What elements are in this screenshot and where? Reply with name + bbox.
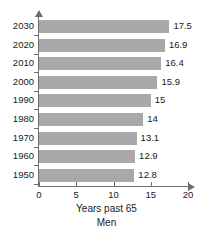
x-axis-tick	[76, 182, 77, 187]
x-axis-tick-label: 20	[176, 189, 200, 201]
bar-value-label: 16.9	[169, 38, 188, 52]
y-axis-tick	[34, 109, 38, 110]
bar	[39, 94, 151, 107]
y-axis-tick	[34, 128, 38, 129]
y-axis-tick	[34, 35, 38, 36]
y-axis-tick	[34, 72, 38, 73]
x-axis-tick	[114, 182, 115, 187]
bar-value-label: 16.4	[165, 56, 184, 70]
category-label: 1960	[13, 149, 34, 163]
bar	[39, 20, 169, 33]
bar	[39, 150, 135, 163]
category-label: 1990	[13, 93, 34, 107]
category-label: 2030	[13, 19, 34, 33]
chart-subtitle: Men	[0, 216, 213, 229]
bar-value-label: 12.9	[139, 149, 158, 163]
y-axis-tick	[34, 184, 38, 185]
bar-value-label: 17.5	[173, 19, 192, 33]
bar-row: 200015.9	[0, 76, 213, 89]
y-axis-tick	[34, 165, 38, 166]
bar-row: 203017.5	[0, 20, 213, 33]
bar-value-label: 14	[147, 112, 158, 126]
x-axis-tick-label: 15	[139, 189, 163, 201]
bar	[39, 132, 137, 145]
bar-value-label: 15	[155, 93, 166, 107]
bar-value-label: 15.9	[161, 75, 180, 89]
x-axis-tick-label: 10	[102, 189, 126, 201]
bar-row: 199015	[0, 94, 213, 107]
bar	[39, 57, 161, 70]
bar-chart: 203017.5202016.9201016.4200015.919901519…	[0, 0, 213, 237]
bar-row: 196012.9	[0, 150, 213, 163]
y-axis-tick	[34, 147, 38, 148]
x-axis-tick-label: 0	[27, 189, 51, 201]
bar-row: 201016.4	[0, 57, 213, 70]
bar-value-label: 12.8	[138, 168, 157, 182]
y-axis-arrow-icon	[35, 10, 43, 17]
y-axis-tick	[34, 91, 38, 92]
bar-value-label: 13.1	[141, 131, 160, 145]
x-axis-title: Years past 65	[0, 202, 213, 215]
bar	[39, 113, 143, 126]
bar	[39, 39, 165, 52]
category-label: 1970	[13, 131, 34, 145]
bar-row: 202016.9	[0, 39, 213, 52]
category-label: 2000	[13, 75, 34, 89]
category-label: 2020	[13, 38, 34, 52]
plot-area: 203017.5202016.9201016.4200015.919901519…	[0, 0, 213, 237]
bar-row: 195012.8	[0, 169, 213, 182]
x-axis-tick	[188, 182, 189, 187]
x-axis-tick-label: 5	[64, 189, 88, 201]
x-axis-tick	[151, 182, 152, 187]
bar	[39, 76, 157, 89]
bar	[39, 169, 134, 182]
category-label: 1950	[13, 168, 34, 182]
bar-row: 197013.1	[0, 132, 213, 145]
bar-row: 198014	[0, 113, 213, 126]
x-axis-tick	[39, 182, 40, 187]
category-label: 2010	[13, 56, 34, 70]
category-label: 1980	[13, 112, 34, 126]
y-axis-tick	[34, 54, 38, 55]
